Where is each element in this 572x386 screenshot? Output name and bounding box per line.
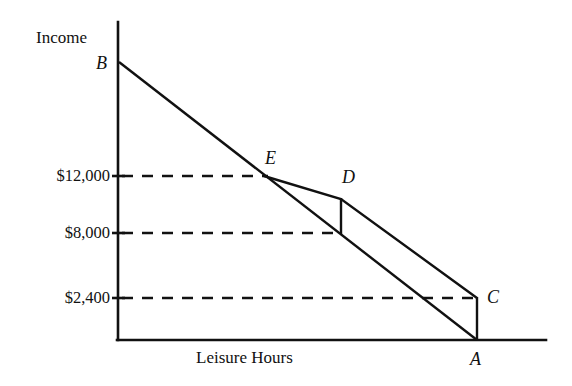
point-label-b: B <box>96 54 107 72</box>
y-tick-label-12000: $12,000 <box>10 168 110 185</box>
point-label-a: A <box>470 350 481 368</box>
y-tick-label-2400: $2,400 <box>10 290 110 307</box>
chart-canvas <box>0 0 572 386</box>
y-axis-title: Income <box>36 29 87 46</box>
point-label-e: E <box>265 149 276 167</box>
point-label-d: D <box>342 168 355 186</box>
y-tick-label-8000: $8,000 <box>10 225 110 242</box>
point-label-c: C <box>487 288 499 306</box>
welfare-budget-line <box>264 176 477 298</box>
budget-constraint-figure: Income Leisure Hours $12,000 $8,000 $2,4… <box>0 0 572 386</box>
x-axis-title: Leisure Hours <box>196 349 293 366</box>
